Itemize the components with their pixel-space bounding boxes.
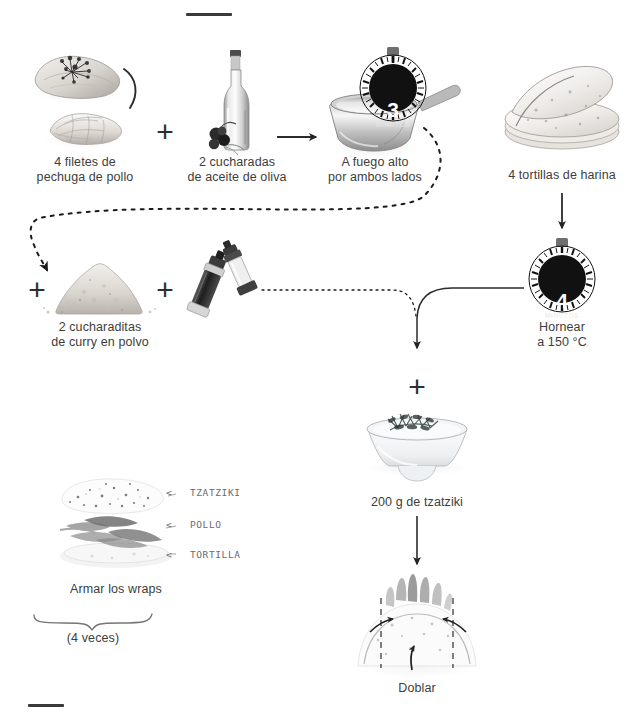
repeat-brace [34,614,152,630]
infographic-canvas: 3 MINUTOS [0,0,642,714]
layer-label-pollo: < POLLO [166,519,222,530]
layer-text-tortilla: TORTILLA [190,549,241,560]
layer-marker-tzatziki: < [166,487,172,498]
caption-tortillas: 4 tortillas de harina [486,168,638,183]
pan-timer-badge: 3 MINUTOS [357,47,429,123]
layer-marker-tortilla: < [166,549,172,560]
caption-assemble: Armar los wraps [36,582,196,597]
caption-fold: Doblar [357,681,477,696]
layer-label-tortilla: < TORTILLA [166,549,241,560]
tzatziki-layer [62,479,163,514]
caption-chicken: 4 filetes de pechuga de pollo [20,155,150,185]
wrap-filling [386,574,452,611]
top-divider-rule [186,13,232,16]
oven-timer-unit: MINUTOS [526,312,598,319]
layer-text-pollo: POLLO [190,519,222,530]
bottom-divider-rule [28,704,64,707]
repeat-note: (4 veces) [33,631,153,646]
dashed-path-spices-to-merge [262,290,416,316]
oven-timer-badge: 4 MINUTOS [526,238,598,314]
dashed-path-pan-to-curry [31,128,441,270]
layer-label-tzatziki: < TZATZIKI [166,487,241,498]
plus-tzatziki: + [402,372,432,402]
chicken-strip-layer [60,516,166,548]
oven-timer-value: 4 [526,290,598,311]
plus-salt-pepper: + [150,275,180,305]
tortilla-stack-icon [504,66,620,150]
olive-oil-bottle-icon [209,50,262,155]
plus-curry: + [22,275,52,305]
chicken-breast-icon [32,56,124,102]
olive-cluster-icon [209,122,244,155]
fold-arrow-left [370,619,393,632]
pan-timer-unit: MINUTOS [357,121,429,128]
artwork-layer [0,0,642,714]
tzatziki-bowl-icon [365,414,469,481]
cooked-chicken-icon [42,114,126,148]
fold-arrow-right [443,619,466,632]
caption-pan: A fuego alto por ambos lados [311,155,439,185]
fold-arrow-bottom [411,646,414,670]
caption-curry: 2 cucharaditas de curry en polvo [35,320,165,350]
layer-marker-pollo: < [166,519,172,530]
pan-timer-value: 3 [357,99,429,120]
caption-tzatziki: 200 g de tzatziki [347,495,487,510]
wrap-layers-icon [60,479,176,568]
caption-oven: Hornear a 150 °C [502,320,622,350]
curry-powder-icon [43,264,156,317]
folding-wrap-icon [358,574,476,678]
caption-olive-oil: 2 cucharadas de aceite de oliva [172,155,302,185]
plus-chicken-oil: + [150,117,180,147]
layer-text-tzatziki: TZATZIKI [190,487,241,498]
chicken-transform-arrow [124,69,136,108]
salt-pepper-mill-icon [186,237,258,318]
